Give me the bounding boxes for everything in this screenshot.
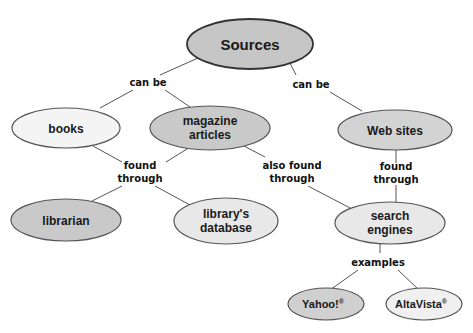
- database-label-line2: database: [200, 221, 252, 235]
- link-found-through-right-line1: found: [380, 161, 413, 172]
- concept-map-diagram: Sources can be can be books magazine art…: [0, 0, 473, 333]
- link-also-found-line2: through: [269, 173, 314, 184]
- link-found-through-right-line2: through: [373, 174, 418, 185]
- librarian-label: librarian: [42, 214, 89, 228]
- link-also-found-line1: also found: [262, 160, 321, 171]
- altavista-label: AltaVista®: [395, 298, 448, 310]
- link-found-through-left-line2: through: [117, 173, 162, 184]
- node-yahoo: Yahoo!®: [288, 288, 364, 320]
- node-magazine-articles: magazine articles: [150, 106, 270, 150]
- node-web-sites: Web sites: [338, 110, 452, 150]
- link-found-through-left-line1: found: [124, 160, 157, 171]
- link-can-be-left: can be: [129, 77, 166, 88]
- node-library-database: library's database: [174, 198, 278, 244]
- line-found-database: [155, 186, 190, 205]
- line-examples-altavista: [398, 270, 418, 289]
- websites-label: Web sites: [367, 124, 423, 138]
- line-magazine-alsofound: [244, 146, 265, 157]
- search-label-line1: search: [371, 209, 410, 223]
- sources-label: Sources: [220, 36, 279, 53]
- yahoo-label: Yahoo!®: [302, 298, 345, 310]
- line-found-librarian: [92, 186, 122, 201]
- node-search-engines: search engines: [335, 202, 445, 244]
- line-sources-canbe-left: [160, 58, 198, 75]
- line-canbe-websites: [330, 92, 362, 111]
- node-sources: Sources: [187, 19, 313, 69]
- diagram-canvas: Sources can be can be books magazine art…: [0, 0, 473, 333]
- yahoo-registered-mark: ®: [339, 298, 345, 305]
- line-magazine-found: [166, 149, 187, 162]
- books-label: books: [48, 122, 84, 136]
- node-librarian: librarian: [11, 199, 121, 241]
- node-altavista: AltaVista®: [386, 288, 462, 320]
- line-books-found: [93, 146, 122, 162]
- magazine-label-line1: magazine: [183, 114, 238, 128]
- altavista-registered-mark: ®: [442, 298, 448, 305]
- database-label-line1: library's: [203, 207, 250, 221]
- line-alsofound-search: [308, 186, 350, 208]
- link-can-be-right: can be: [292, 79, 329, 90]
- yahoo-text: Yahoo!: [302, 298, 339, 310]
- line-examples-yahoo: [330, 270, 358, 290]
- link-examples: examples: [351, 257, 405, 268]
- search-label-line2: engines: [367, 223, 413, 237]
- node-books: books: [12, 108, 120, 148]
- altavista-text: AltaVista: [395, 298, 443, 310]
- magazine-label-line2: articles: [189, 128, 231, 142]
- line-sources-canbe-right: [290, 63, 296, 75]
- line-canbe-books: [100, 90, 133, 108]
- line-canbe-magazine: [165, 90, 190, 107]
